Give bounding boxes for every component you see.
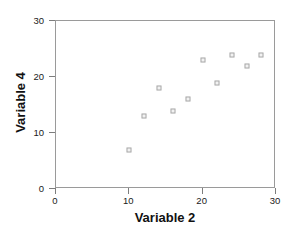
data-point [259, 52, 264, 57]
x-axis-tick [202, 188, 203, 194]
scatter-plot: 01020300102030 Variable 2 Variable 4 [0, 0, 298, 246]
x-axis-tick [55, 188, 56, 194]
data-point [244, 63, 249, 68]
x-axis-tick-label: 20 [182, 195, 222, 206]
data-point [171, 108, 176, 113]
data-point [200, 58, 205, 63]
data-point [230, 52, 235, 57]
x-axis-tick-label: 10 [108, 195, 148, 206]
data-point [215, 80, 220, 85]
data-point [156, 86, 161, 91]
data-point [127, 147, 132, 152]
x-axis-tick [275, 188, 276, 194]
y-axis-tick [49, 76, 55, 77]
y-axis-tick [49, 20, 55, 21]
x-axis-tick-label: 30 [255, 195, 295, 206]
y-axis-tick [49, 132, 55, 133]
data-point [142, 114, 147, 119]
x-axis-tick [128, 188, 129, 194]
data-point [186, 97, 191, 102]
y-axis-title: Variable 4 [13, 19, 28, 187]
plot-area [55, 20, 275, 188]
x-axis-tick-label: 0 [35, 195, 75, 206]
x-axis-title: Variable 2 [55, 210, 275, 225]
